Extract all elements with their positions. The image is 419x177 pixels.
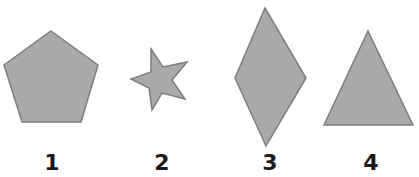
label-triangle: 4 xyxy=(363,150,378,175)
label-rhombus: 3 xyxy=(262,150,277,175)
triangle-shape xyxy=(324,31,413,125)
shapes-figure: 1 2 3 4 xyxy=(0,0,419,177)
star-shape xyxy=(131,49,187,110)
rhombus-shape xyxy=(235,8,306,146)
pentagon-shape xyxy=(4,31,98,122)
label-pentagon: 1 xyxy=(44,150,59,175)
label-star: 2 xyxy=(154,150,169,175)
